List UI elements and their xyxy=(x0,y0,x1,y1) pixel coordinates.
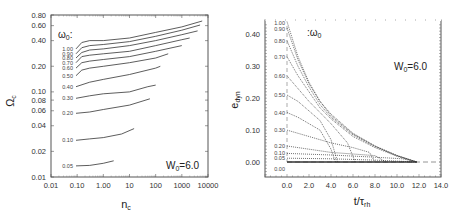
curve-label: 0.00 xyxy=(274,166,285,172)
x-tick-label: 6.0 xyxy=(348,181,358,190)
x-tick-label: 0.10 xyxy=(70,181,85,190)
curve-omega-0.10 xyxy=(76,129,134,141)
y-tick-label: 0.04 xyxy=(31,121,46,130)
x-tick-label: 10.0 xyxy=(390,181,405,190)
right-legend-title: :ω0 xyxy=(307,27,322,39)
x-tick-label: 8.0 xyxy=(370,181,380,190)
curve-label: 0.80 xyxy=(274,38,285,44)
curve-omega-0.60 xyxy=(76,46,182,69)
y-tick-label: 0.10 xyxy=(245,126,260,135)
curve-omega-1.00 xyxy=(287,22,417,162)
left-y-axis-label: Ωc xyxy=(4,95,17,107)
curve-omega-0.40 xyxy=(76,66,160,86)
y-tick-label: 0.60 xyxy=(31,21,46,30)
x-tick-label: 10 xyxy=(125,181,133,190)
y-tick-label: 0.02 xyxy=(31,147,46,156)
left-x-axis-label: nc xyxy=(121,198,131,211)
curve-label: 0.50 xyxy=(274,92,285,98)
left-legend-title: ω0: xyxy=(58,29,73,41)
curve-omega-0.90 xyxy=(287,28,417,162)
left-chart: 0.010.101.00101001000100000.010.020.040.… xyxy=(4,11,218,212)
y-tick-label: 0.08 xyxy=(31,96,46,105)
curve-omega-0.60 xyxy=(287,76,355,162)
right-y-axis-label: edyn xyxy=(228,91,242,109)
curve-omega-1.00 xyxy=(76,21,202,49)
curve-omega-0.70 xyxy=(76,38,190,63)
x-tick-label: 4.0 xyxy=(326,181,336,190)
curve-label: 0.40 xyxy=(62,84,73,90)
curve-omega-0.30 xyxy=(287,130,375,162)
curve-label: 0.60 xyxy=(274,73,285,79)
left-annotation: W0=6.0 xyxy=(166,160,200,172)
right-curves: 1.000.900.800.700.600.500.400.300.200.10… xyxy=(274,20,441,172)
x-tick-label: 1000 xyxy=(173,181,190,190)
curve-label: 0.70 xyxy=(274,54,285,60)
curve-omega-0.80 xyxy=(287,41,417,162)
x-tick-label: 1.00 xyxy=(96,181,111,190)
y-tick-label: 0.30 xyxy=(245,62,260,71)
right-annotation: W0=6.0 xyxy=(394,61,428,73)
y-tick-label: 0.20 xyxy=(31,62,46,71)
curve-label: 0.10 xyxy=(62,137,73,143)
x-tick-label: 100 xyxy=(149,181,162,190)
x-tick-label: 0.0 xyxy=(282,181,292,190)
y-tick-label: 0.00 xyxy=(245,158,260,167)
curve-label: 0.40 xyxy=(274,110,285,116)
curve-omega-0.70 xyxy=(287,57,417,162)
x-tick-label: 12.0 xyxy=(412,181,427,190)
curve-omega-0.30 xyxy=(76,85,156,98)
curve-label: 0.20 xyxy=(274,143,285,149)
curve-label: 0.05 xyxy=(274,155,285,161)
curve-label: 0.30 xyxy=(62,95,73,101)
curve-label: 0.60 xyxy=(62,65,73,71)
y-tick-label: 0.01 xyxy=(31,173,46,182)
x-tick-label: 14.0 xyxy=(434,181,449,190)
y-tick-label: 0.40 xyxy=(31,36,46,45)
x-tick-label: 0.01 xyxy=(44,181,59,190)
curve-label: 0.30 xyxy=(274,127,285,133)
y-tick-label: 0.20 xyxy=(245,94,260,103)
y-tick-label: 0.40 xyxy=(245,30,260,39)
right-x-axis-label: t/τrh xyxy=(354,195,371,208)
y-tick-label: 0.10 xyxy=(31,87,46,96)
curve-label: 0.05 xyxy=(62,163,73,169)
y-tick-label: 0.06 xyxy=(31,106,46,115)
right-chart: 0.02.04.06.08.010.012.014.00.000.100.200… xyxy=(228,20,448,208)
x-tick-label: 10000 xyxy=(198,181,219,190)
figure: 0.010.101.00101001000100000.010.020.040.… xyxy=(0,0,456,220)
curve-omega-0.20 xyxy=(76,99,150,114)
curve-omega-0.80 xyxy=(76,31,198,58)
x-tick-label: 2.0 xyxy=(304,181,314,190)
left-curves: 1.000.900.800.700.600.500.400.300.200.10… xyxy=(62,21,202,169)
curve-label: 0.20 xyxy=(62,110,73,116)
y-tick-label: 0.80 xyxy=(31,11,46,20)
curve-omega-0.05 xyxy=(76,161,114,166)
curve-label: 0.90 xyxy=(274,26,285,32)
curve-label: 0.50 xyxy=(62,73,73,79)
